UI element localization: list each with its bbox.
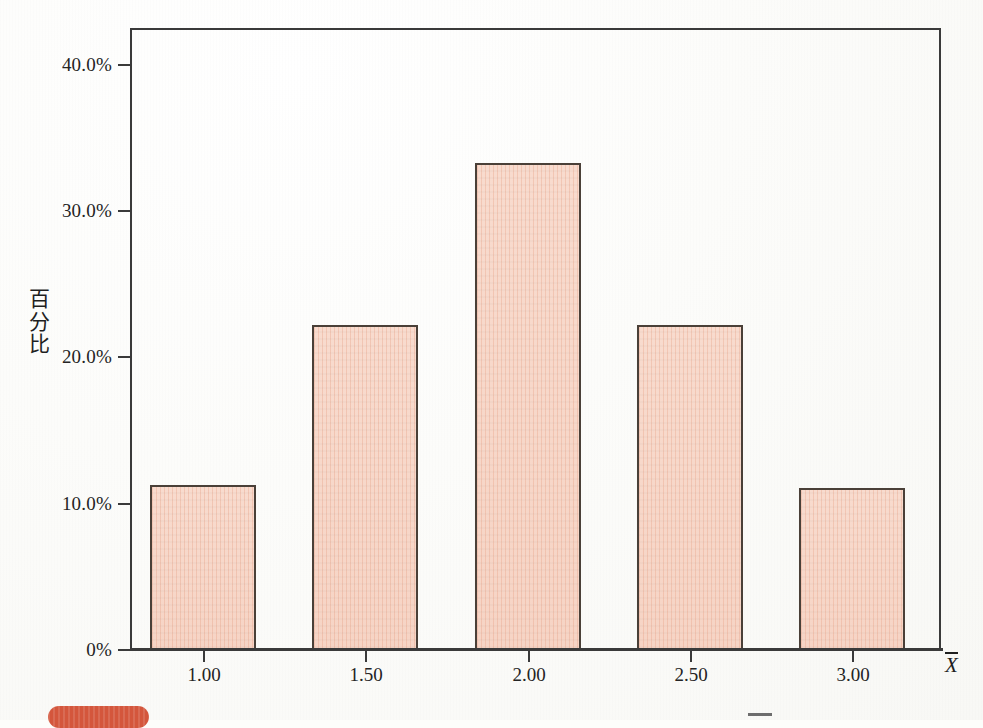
y-axis-tick-label: 40.0% — [62, 54, 112, 76]
y-axis-tick-label-wrap: 20.0% — [0, 357, 112, 358]
x-axis-title: X — [945, 652, 958, 678]
x-axis-tick-label: 2.50 — [674, 664, 707, 686]
y-axis-tick-label: 0% — [86, 639, 112, 661]
bar — [150, 485, 256, 650]
y-axis-tick-label: 10.0% — [62, 493, 112, 515]
x-axis-title-symbol: X — [945, 652, 958, 676]
x-axis-tick — [528, 650, 530, 662]
bar — [312, 325, 418, 650]
y-axis-title-char-3: 比 — [24, 333, 54, 356]
y-axis-tick-label-wrap: 0% — [0, 650, 112, 651]
x-axis-tick — [365, 650, 367, 662]
bar — [475, 163, 581, 650]
bar — [799, 488, 905, 650]
x-axis-tick — [690, 650, 692, 662]
y-axis-title-char-1: 百 — [24, 288, 54, 311]
x-axis-line — [130, 648, 943, 651]
page-artifact-red-pill — [48, 706, 149, 728]
x-axis-tick-label: 1.00 — [187, 664, 220, 686]
x-axis-tick-label: 1.50 — [349, 664, 382, 686]
x-axis-tick — [203, 650, 205, 662]
y-axis-tick-label: 30.0% — [62, 200, 112, 222]
y-axis-tick-label-wrap: 30.0% — [0, 211, 112, 212]
y-axis-tick-label-wrap: 10.0% — [0, 504, 112, 505]
y-axis-tick-label: 20.0% — [62, 346, 112, 368]
x-axis-tick-label: 3.00 — [836, 664, 869, 686]
bar — [637, 325, 743, 650]
x-axis-tick-label: 2.00 — [512, 664, 545, 686]
x-axis-tick — [852, 650, 854, 662]
y-axis-title: 百 分 比 — [24, 288, 54, 356]
y-axis-tick-label-wrap: 40.0% — [0, 65, 112, 66]
page-artifact-overbar-fragment — [748, 713, 772, 716]
y-axis-title-char-2: 分 — [24, 311, 54, 334]
